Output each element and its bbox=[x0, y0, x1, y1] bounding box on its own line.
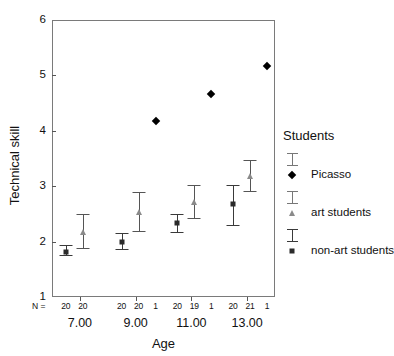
legend-label: art students bbox=[311, 206, 371, 218]
error-bar-cap bbox=[244, 160, 257, 161]
n-value: 20 bbox=[173, 301, 182, 311]
n-value: 20 bbox=[134, 301, 143, 311]
n-value: 1 bbox=[209, 301, 214, 311]
x-tick-label: 13.00 bbox=[231, 316, 262, 330]
data-point-square bbox=[119, 239, 124, 244]
data-point-triangle bbox=[247, 173, 253, 179]
error-bar-cap bbox=[59, 255, 72, 256]
n-value: 19 bbox=[190, 301, 199, 311]
legend-marker-glyph bbox=[290, 249, 295, 254]
legend-errorbar-icon bbox=[287, 191, 298, 204]
error-bar-cap bbox=[171, 232, 184, 233]
x-tick-label: 9.00 bbox=[123, 316, 147, 330]
n-value: 20 bbox=[117, 301, 126, 311]
data-point-triangle bbox=[136, 209, 142, 215]
error-bar-cap bbox=[227, 225, 240, 226]
legend-title: Students bbox=[283, 128, 386, 143]
plot-area bbox=[52, 20, 275, 297]
data-point-triangle bbox=[191, 199, 197, 205]
legend-marker-glyph bbox=[289, 210, 295, 216]
error-bar-cap bbox=[188, 218, 201, 219]
y-tick-mark bbox=[52, 186, 56, 187]
error-bar-cap bbox=[115, 233, 128, 234]
y-tick-label: 3 bbox=[30, 180, 46, 192]
n-row-prefix: N = bbox=[32, 301, 45, 311]
y-tick-label: 2 bbox=[30, 236, 46, 248]
n-value: 21 bbox=[245, 301, 254, 311]
legend-errorbar-icon bbox=[287, 229, 298, 242]
data-point-square bbox=[63, 249, 68, 254]
error-bar-cap bbox=[59, 245, 72, 246]
legend-triangle-icon bbox=[292, 213, 298, 219]
legend-item[interactable]: art students bbox=[283, 191, 386, 229]
n-value: 20 bbox=[228, 301, 237, 311]
data-point-square bbox=[231, 202, 236, 207]
error-bar-cap bbox=[188, 185, 201, 186]
y-tick-label: 6 bbox=[30, 14, 46, 26]
legend-item[interactable]: non-art students bbox=[283, 229, 386, 267]
error-bar-cap bbox=[132, 192, 145, 193]
error-bar-cap bbox=[76, 248, 89, 249]
error-bar-cap bbox=[171, 214, 184, 215]
legend-diamond-icon bbox=[292, 175, 298, 181]
legend-item[interactable]: Picasso bbox=[283, 153, 386, 191]
n-value: 1 bbox=[153, 301, 158, 311]
y-tick-mark bbox=[52, 75, 56, 76]
y-tick-label: 5 bbox=[30, 70, 46, 82]
legend: Students Picassoart studentsnon-art stud… bbox=[283, 128, 386, 267]
data-point-square bbox=[175, 221, 180, 226]
data-point-triangle bbox=[80, 229, 86, 235]
legend-errorbar-icon bbox=[287, 153, 298, 166]
x-tick-label: 11.00 bbox=[176, 316, 206, 330]
error-bar-cap bbox=[227, 185, 240, 186]
x-tick-label: 7.00 bbox=[68, 316, 92, 330]
error-bar-cap bbox=[115, 249, 128, 250]
x-axis-title: Age bbox=[52, 336, 275, 351]
y-tick-mark bbox=[52, 242, 56, 243]
legend-marker-glyph bbox=[288, 171, 296, 179]
n-value: 1 bbox=[265, 301, 270, 311]
y-axis-title: Technical skill bbox=[7, 66, 22, 266]
y-tick-label: 4 bbox=[30, 125, 46, 137]
legend-label: Picasso bbox=[311, 168, 351, 180]
error-bar-cap bbox=[132, 231, 145, 232]
n-value: 20 bbox=[78, 301, 87, 311]
error-bar-cap bbox=[244, 191, 257, 192]
legend-square-icon bbox=[292, 251, 297, 256]
legend-label: non-art students bbox=[311, 244, 394, 256]
y-tick-mark bbox=[52, 131, 56, 132]
error-bar-cap bbox=[76, 214, 89, 215]
n-value: 20 bbox=[61, 301, 70, 311]
